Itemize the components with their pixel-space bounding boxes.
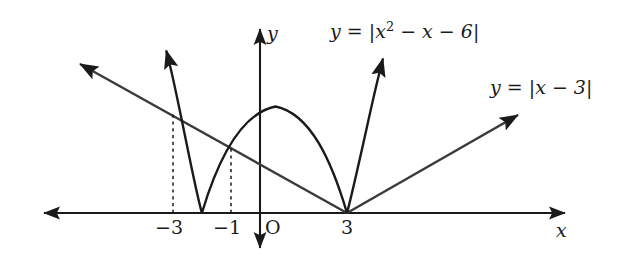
curve-label-parabola-rest: − x − 6 [400, 20, 473, 42]
curve-label-line-expr: x − 3 [535, 76, 586, 98]
graph-figure: −3 −1 3 O y x y = |x2 − x − 6| y = |x − … [0, 0, 627, 262]
curve-label-line-lhs: y [490, 76, 501, 98]
y-axis-label: y [267, 24, 278, 43]
x-axis-label: x [556, 221, 567, 240]
curve-label-parabola: y = |x2 − x − 6| [330, 22, 479, 41]
parabola-right-branch [347, 59, 383, 214]
x-tick-label-minus-1: −1 [213, 218, 241, 237]
curve-label-line-eq: = [507, 76, 523, 98]
abs-line-right-branch [347, 115, 518, 213]
origin-label: O [265, 218, 281, 237]
curve-label-line-bar-close: | [586, 76, 592, 98]
parabola-middle-arc [202, 107, 347, 214]
x-tick-label-3: 3 [341, 218, 353, 237]
curve-label-parabola-exponent: 2 [386, 19, 394, 34]
graph-canvas [0, 0, 627, 262]
parabola-left-branch [166, 51, 202, 214]
curve-label-parabola-bar-close: | [473, 20, 479, 42]
curve-label-parabola-base: x [375, 20, 386, 42]
abs-line-left-branch [80, 64, 347, 213]
x-tick-label-minus-3: −3 [155, 218, 183, 237]
curve-label-parabola-eq: = [347, 20, 363, 42]
curve-label-parabola-lhs: y [330, 20, 341, 42]
curve-label-abs-line: y = |x − 3| [490, 78, 592, 97]
